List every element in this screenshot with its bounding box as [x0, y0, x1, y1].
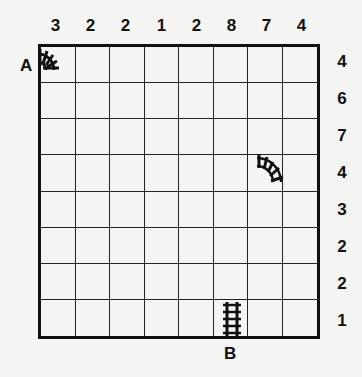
column-clue-5: 2 — [179, 16, 214, 36]
column-clue-3: 2 — [108, 16, 143, 36]
grid-cell[interactable] — [283, 300, 318, 336]
grid-cell[interactable] — [214, 119, 249, 155]
row-clue-1: 4 — [332, 52, 352, 72]
row-clue-5: 3 — [332, 200, 352, 220]
grid-cell[interactable] — [145, 192, 180, 228]
grid-cell[interactable] — [41, 264, 76, 300]
grid-cell[interactable] — [76, 228, 111, 264]
grid-cell[interactable] — [76, 264, 111, 300]
grid-cell[interactable] — [76, 83, 111, 119]
grid-cell[interactable] — [179, 264, 214, 300]
column-clue-1: 3 — [38, 16, 73, 36]
column-clue-2: 2 — [73, 16, 108, 36]
row-clue-2: 6 — [332, 89, 352, 109]
start-label-a: A — [20, 56, 32, 76]
grid-cell[interactable] — [76, 300, 111, 336]
grid-cell[interactable] — [248, 83, 283, 119]
grid-cell[interactable] — [283, 228, 318, 264]
curved-track-icon — [38, 44, 76, 82]
puzzle-grid — [38, 44, 320, 339]
grid-cell[interactable] — [179, 300, 214, 336]
end-label-b: B — [224, 344, 236, 364]
column-clue-7: 7 — [249, 16, 284, 36]
grid-cell[interactable] — [248, 228, 283, 264]
grid-cell[interactable] — [76, 155, 111, 191]
grid-cell[interactable] — [248, 192, 283, 228]
grid-cell[interactable] — [145, 47, 180, 83]
row-clue-7: 2 — [332, 274, 352, 294]
row-clue-3: 7 — [332, 126, 352, 146]
grid-cell[interactable] — [110, 47, 145, 83]
grid-cell[interactable] — [214, 264, 249, 300]
grid-cell[interactable] — [283, 47, 318, 83]
grid-cell[interactable] — [41, 300, 76, 336]
curved-track-icon — [255, 152, 289, 186]
grid-cell[interactable] — [214, 228, 249, 264]
grid-cell[interactable] — [179, 119, 214, 155]
grid-cell[interactable] — [179, 47, 214, 83]
grid-cell[interactable] — [41, 155, 76, 191]
grid-cell[interactable] — [283, 192, 318, 228]
grid-cell[interactable] — [145, 264, 180, 300]
grid-cell[interactable] — [283, 119, 318, 155]
column-clue-4: 1 — [144, 16, 179, 36]
grid-cell[interactable] — [145, 300, 180, 336]
grid-cell[interactable] — [145, 119, 180, 155]
grid-cell[interactable] — [248, 300, 283, 336]
grid-cell[interactable] — [110, 119, 145, 155]
grid-cell[interactable] — [145, 228, 180, 264]
column-clue-8: 4 — [284, 16, 319, 36]
grid-cell[interactable] — [110, 264, 145, 300]
row-clue-6: 2 — [332, 237, 352, 257]
row-clue-4: 4 — [332, 163, 352, 183]
grid-cell[interactable] — [214, 192, 249, 228]
grid-cell[interactable] — [110, 83, 145, 119]
grid-cell[interactable] — [145, 155, 180, 191]
grid-cell[interactable] — [110, 300, 145, 336]
grid-cell[interactable] — [248, 264, 283, 300]
grid-cell[interactable] — [41, 83, 76, 119]
grid-cell[interactable] — [41, 228, 76, 264]
row-clue-8: 1 — [332, 311, 352, 331]
grid-cell[interactable] — [110, 155, 145, 191]
grid-cell[interactable] — [145, 83, 180, 119]
grid-cell[interactable] — [41, 119, 76, 155]
grid-cell[interactable] — [76, 192, 111, 228]
grid-cell[interactable] — [76, 47, 111, 83]
grid-cell[interactable] — [179, 228, 214, 264]
grid-cell[interactable] — [214, 83, 249, 119]
grid-cell[interactable] — [214, 47, 249, 83]
grid-cell[interactable] — [41, 192, 76, 228]
grid-cell[interactable] — [248, 47, 283, 83]
grid-cell[interactable] — [283, 264, 318, 300]
grid-cell[interactable] — [179, 155, 214, 191]
grid-cell[interactable] — [110, 228, 145, 264]
grid-cell[interactable] — [76, 119, 111, 155]
column-clue-6: 8 — [214, 16, 249, 36]
grid-cell[interactable] — [214, 155, 249, 191]
grid-cell[interactable] — [179, 83, 214, 119]
grid-cell[interactable] — [179, 192, 214, 228]
grid-cell[interactable] — [110, 192, 145, 228]
straight-track-icon — [222, 302, 242, 338]
grid-cell[interactable] — [248, 119, 283, 155]
grid-cell[interactable] — [283, 83, 318, 119]
